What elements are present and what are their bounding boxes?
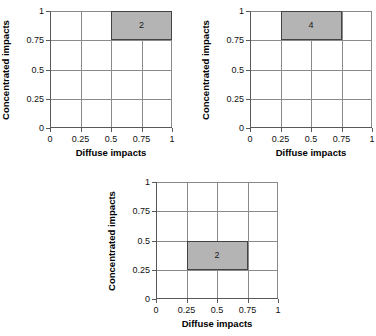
x-axis-title: Diffuse impacts bbox=[182, 319, 253, 329]
y-tick-mark bbox=[152, 211, 156, 212]
x-tick-mark bbox=[187, 299, 188, 303]
gridline-horizontal bbox=[156, 211, 278, 212]
x-tick-label: 1 bbox=[275, 306, 280, 315]
y-tick-label: 0.5 bbox=[122, 236, 150, 245]
y-axis-title: Concentrated impacts bbox=[107, 191, 117, 291]
y-tick-mark bbox=[152, 299, 156, 300]
y-axis-line bbox=[156, 182, 157, 299]
y-tick-label: 0.25 bbox=[122, 265, 150, 274]
x-tick-label: 0.75 bbox=[239, 306, 257, 315]
x-tick-label: 0.5 bbox=[211, 306, 224, 315]
plot-area: 2 bbox=[156, 182, 278, 299]
x-tick-mark bbox=[217, 299, 218, 303]
x-tick-mark bbox=[278, 299, 279, 303]
gridline-horizontal bbox=[156, 270, 278, 271]
y-tick-mark bbox=[152, 241, 156, 242]
chart-bottom-center: 200.250.50.75100.250.50.751Diffuse impac… bbox=[0, 0, 376, 336]
data-region: 2 bbox=[187, 241, 248, 270]
y-tick-mark bbox=[152, 270, 156, 271]
y-tick-mark bbox=[152, 182, 156, 183]
y-tick-label: 0 bbox=[122, 295, 150, 304]
x-tick-label: 0 bbox=[153, 306, 158, 315]
y-tick-label: 0.75 bbox=[122, 207, 150, 216]
gridline-horizontal bbox=[156, 182, 278, 183]
x-tick-mark bbox=[248, 299, 249, 303]
y-tick-label: 1 bbox=[122, 178, 150, 187]
x-tick-label: 0.25 bbox=[178, 306, 196, 315]
region-count-label: 2 bbox=[214, 251, 219, 260]
x-tick-mark bbox=[156, 299, 157, 303]
